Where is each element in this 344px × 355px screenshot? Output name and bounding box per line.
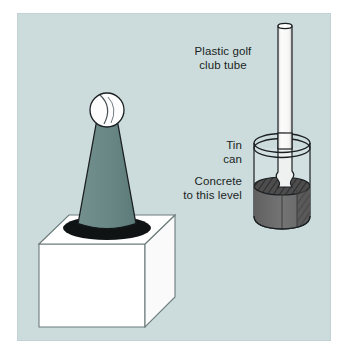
cone-on-block-assembly bbox=[39, 93, 175, 327]
label-concrete-to-this-level: Concrete to this level bbox=[176, 175, 242, 202]
cone-body bbox=[78, 118, 136, 230]
tube-through-rim bbox=[278, 133, 292, 149]
diagram-artwork bbox=[0, 0, 344, 355]
label-tin-can: Tin can bbox=[186, 139, 242, 166]
plastic-tube-inside-can bbox=[276, 148, 294, 187]
label-plastic-golf-club-tube: Plastic golf club tube bbox=[186, 45, 260, 72]
plastic-tube-upper bbox=[278, 26, 292, 148]
tennis-ball bbox=[90, 93, 124, 127]
tube-in-can-assembly bbox=[252, 23, 312, 232]
tube-opening bbox=[278, 23, 292, 28]
figure-diagram: Plastic golf club tube Tin can Concrete … bbox=[0, 0, 344, 355]
